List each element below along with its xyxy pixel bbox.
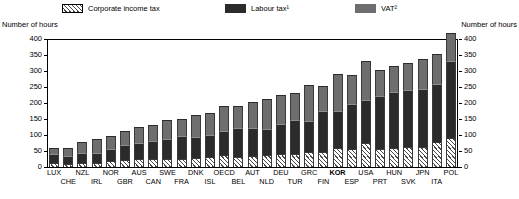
legend-label-labour-tax: Labour tax¹ (251, 4, 289, 13)
bar-segment-HUN-vat (389, 66, 399, 92)
bar-segment-FIN-labour (318, 111, 328, 152)
bar-segment-IRL-labour (92, 153, 102, 163)
y-tick-mark-right-300 (459, 71, 462, 72)
bar-OECD[interactable] (219, 106, 229, 167)
bar-segment-DEU-corporate (276, 154, 286, 167)
bar-CHE[interactable] (63, 148, 73, 167)
bar-segment-FRA-corporate (177, 159, 187, 167)
bar-TUR[interactable] (290, 93, 300, 167)
dark-swatch-icon (225, 4, 246, 13)
y-tick-mark-right-100 (459, 135, 462, 136)
y-tick-label-left-200: 200 (20, 99, 42, 107)
bar-segment-CAN-vat (148, 125, 158, 141)
bar-KOR[interactable] (333, 74, 343, 167)
x-axis-label-TUR: TUR (281, 178, 309, 186)
left-axis-title: Number of hours (2, 20, 58, 29)
bar-SWE[interactable] (162, 120, 172, 167)
x-axis-label-PRT: PRT (366, 178, 394, 186)
bar-DNK[interactable] (191, 115, 201, 167)
y-tick-mark-right-350 (459, 55, 462, 56)
bar-SVK[interactable] (403, 63, 413, 167)
bar-GRC[interactable] (304, 85, 314, 167)
bar-ISL[interactable] (205, 113, 215, 167)
bar-GBR[interactable] (120, 131, 130, 167)
bar-segment-POL-vat (446, 33, 456, 62)
bar-NOR[interactable] (106, 136, 116, 167)
bar-ITA[interactable] (432, 54, 442, 167)
x-axis-label-USA: USA (352, 169, 380, 177)
bar-LUX[interactable] (49, 148, 59, 167)
bar-BEL[interactable] (233, 106, 243, 167)
bar-segment-POL-corporate (446, 138, 456, 167)
bar-NLD[interactable] (262, 99, 272, 167)
bar-segment-IRL-vat (92, 139, 102, 152)
bar-FIN[interactable] (318, 86, 328, 167)
bar-segment-ESP-vat (347, 75, 357, 104)
bar-segment-USA-corporate (361, 143, 371, 167)
bar-POL[interactable] (446, 33, 456, 167)
bar-segment-GBR-labour (120, 145, 130, 160)
bar-segment-GBR-corporate (120, 160, 130, 167)
bar-NZL[interactable] (77, 142, 87, 167)
bar-segment-LUX-vat (49, 148, 59, 154)
x-axis-label-SVK: SVK (394, 178, 422, 186)
bar-segment-FRA-vat (177, 119, 187, 136)
y-tick-mark-right-250 (459, 87, 462, 88)
bar-segment-OECD-vat (219, 106, 229, 130)
x-axis-label-JPN: JPN (409, 169, 437, 177)
bar-segment-SVK-corporate (403, 147, 413, 167)
bar-segment-AUT-corporate (248, 156, 258, 167)
bar-segment-AUS-vat (134, 127, 144, 142)
y-tick-label-left-50: 50 (20, 147, 42, 155)
bar-segment-TUR-corporate (290, 154, 300, 167)
bar-segment-KOR-labour (333, 111, 343, 148)
bar-PRT[interactable] (375, 70, 385, 167)
bar-segment-NZL-vat (77, 142, 87, 153)
y-tick-mark-right-50 (459, 151, 462, 152)
bar-segment-CAN-corporate (148, 159, 158, 167)
bar-segment-GBR-vat (120, 131, 130, 145)
x-axis-label-DNK: DNK (182, 169, 210, 177)
y-tick-label-right-400: 400 (464, 35, 477, 43)
bar-segment-CAN-labour (148, 141, 158, 158)
legend-item-corporate-income-tax: Corporate income tax (62, 4, 160, 13)
y-tick-label-left-250: 250 (20, 83, 42, 91)
bar-segment-HUN-corporate (389, 148, 399, 167)
bar-segment-DEU-vat (276, 95, 286, 124)
bar-segment-KOR-vat (333, 74, 343, 111)
bar-USA[interactable] (361, 61, 371, 167)
bar-HUN[interactable] (389, 66, 399, 167)
bar-segment-ESP-labour (347, 104, 357, 149)
hatched-swatch-icon (62, 4, 83, 13)
bar-segment-KOR-corporate (333, 148, 343, 167)
bar-AUT[interactable] (248, 102, 258, 167)
bar-IRL[interactable] (92, 139, 102, 167)
bar-segment-JPN-labour (418, 89, 428, 147)
y-tick-mark-right-200 (459, 103, 462, 104)
x-axis-label-NZL: NZL (68, 169, 96, 177)
bar-series-group (48, 39, 458, 167)
bar-AUS[interactable] (134, 127, 144, 167)
bar-segment-USA-vat (361, 61, 371, 100)
bar-CAN[interactable] (148, 125, 158, 167)
bar-segment-OECD-corporate (219, 155, 229, 167)
bar-segment-DNK-vat (191, 115, 201, 137)
x-axis-label-CHE: CHE (54, 178, 82, 186)
bar-ESP[interactable] (347, 75, 357, 167)
x-axis-label-HUN: HUN (380, 169, 408, 177)
bar-segment-ITA-vat (432, 54, 442, 85)
bar-segment-PRT-corporate (375, 149, 385, 167)
bar-segment-ITA-corporate (432, 142, 442, 167)
y-tick-label-right-100: 100 (464, 131, 477, 139)
bar-segment-SVK-labour (403, 90, 413, 148)
y-tick-label-right-200: 200 (464, 99, 477, 107)
y-tick-label-left-100: 100 (20, 131, 42, 139)
x-axis-label-DEU: DEU (267, 169, 295, 177)
x-axis-label-SWE: SWE (153, 169, 181, 177)
bar-segment-GRC-corporate (304, 152, 314, 167)
bar-FRA[interactable] (177, 119, 187, 167)
x-axis-label-FIN: FIN (309, 178, 337, 186)
bar-DEU[interactable] (276, 95, 286, 167)
bar-segment-FRA-labour (177, 136, 187, 158)
bar-JPN[interactable] (418, 59, 428, 167)
